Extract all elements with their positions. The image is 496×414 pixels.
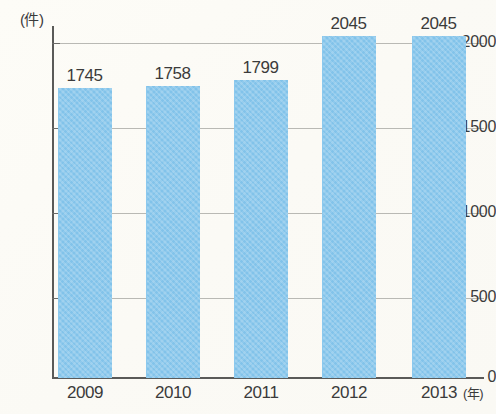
bar-2011[interactable] (234, 80, 288, 378)
x-tick-label-2011: 2011 (232, 383, 290, 403)
bar-2013[interactable] (412, 36, 466, 378)
x-tick-label-2009: 2009 (56, 383, 114, 403)
bar-value-2012: 2045 (322, 14, 375, 34)
bar-chart: (件) (年) 2000 1500 1000 500 0 1745 1758 1… (0, 0, 496, 414)
x-tick-label-2013: 2013 (410, 383, 468, 403)
bar-value-2010: 1758 (146, 64, 199, 84)
bar-value-2013: 2045 (412, 14, 465, 34)
x-tick-label-2012: 2012 (320, 383, 378, 403)
bar-2010[interactable] (146, 86, 200, 378)
bar-value-2009: 1745 (58, 66, 111, 86)
plot-area: 1745 1758 1799 2045 2045 2009 2010 2011 … (0, 0, 496, 414)
x-tick-label-2010: 2010 (144, 383, 202, 403)
bar-value-2011: 1799 (234, 58, 287, 78)
bar-2012[interactable] (322, 36, 376, 378)
bar-2009[interactable] (58, 88, 112, 378)
